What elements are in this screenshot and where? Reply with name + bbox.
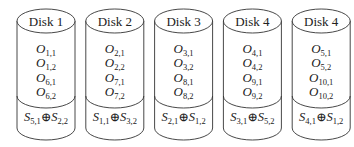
- disk-cylinder: Disk 4O5,1O5,2O10,1O10,2S4,1⊕S1,2: [292, 9, 350, 140]
- disk-cylinder: Disk 2O2,1O2,2O7,1O7,2S1,1⊕S3,2: [86, 9, 144, 140]
- xor-icon: ⊕: [316, 110, 326, 124]
- disk-label: Disk 3: [166, 14, 200, 29]
- xor-icon: ⊕: [110, 110, 120, 124]
- xor-icon: ⊕: [178, 110, 188, 124]
- disk-cylinder: Disk 4O4,1O4,2O9,1O9,2S3,1⊕S5,2: [223, 9, 281, 140]
- disk-label: Disk 4: [304, 14, 339, 29]
- xor-icon: ⊕: [41, 110, 51, 124]
- disk-cylinder: Disk 3O3,1O3,2O8,1O8,2S2,1⊕S1,2: [155, 9, 213, 140]
- disk-array-diagram: Disk 1O1,1O1,2O6,1O6,2S5,1⊕S2,2Disk 2O2,…: [0, 0, 354, 147]
- disk-cylinder: Disk 1O1,1O1,2O6,1O6,2S5,1⊕S2,2: [17, 9, 75, 140]
- disk-label: Disk 4: [235, 14, 270, 29]
- xor-icon: ⊕: [247, 110, 257, 124]
- disk-label: Disk 2: [98, 14, 132, 29]
- disk-label: Disk 1: [29, 14, 63, 29]
